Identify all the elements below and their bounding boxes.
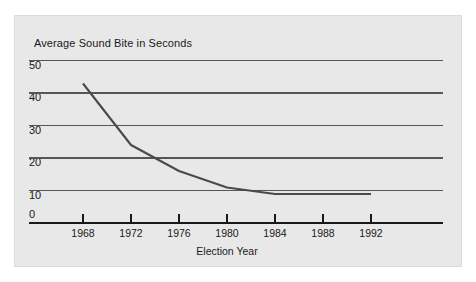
x-axis-ticks (83, 214, 371, 223)
xtick-label-1980: 1980 (215, 227, 238, 239)
data-line-series-1 (83, 84, 371, 195)
xtick-label-1984: 1984 (263, 227, 286, 239)
xtick-label-1988: 1988 (311, 227, 334, 239)
xtick-label-1968: 1968 (71, 227, 94, 239)
x-axis-title: Election Year (196, 245, 257, 257)
figure: Average Sound Bite in Seconds 50 40 30 2… (0, 0, 476, 282)
xtick-label-1992: 1992 (359, 227, 382, 239)
xtick-label-1976: 1976 (167, 227, 190, 239)
xtick-label-1972: 1972 (119, 227, 142, 239)
gridlines (29, 61, 443, 191)
chart-panel: Average Sound Bite in Seconds 50 40 30 2… (14, 15, 462, 267)
